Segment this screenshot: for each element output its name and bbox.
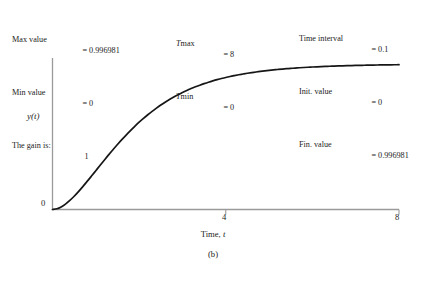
x-tick-label-0: 0 bbox=[41, 198, 45, 208]
x-axis-tick-marks bbox=[226, 210, 399, 215]
response-curve bbox=[53, 65, 400, 210]
x-tick-label-8: 8 bbox=[395, 212, 399, 222]
step-response-figure: Max value = 0.996981 Min value = 0 The g… bbox=[0, 0, 426, 281]
x-tick-label-4: 4 bbox=[222, 212, 226, 222]
y-axis-label: y(t) bbox=[27, 111, 40, 121]
figure-caption: (b) bbox=[0, 249, 426, 259]
x-axis-label: Time, t bbox=[0, 229, 426, 239]
